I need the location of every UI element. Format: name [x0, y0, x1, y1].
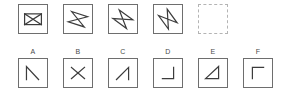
option-f-cell[interactable]: [243, 58, 273, 88]
right-triangle-icon: [199, 59, 227, 87]
option-b[interactable]: B: [63, 48, 93, 88]
bowtie-rotated-2-icon: [109, 5, 137, 33]
option-f[interactable]: F: [243, 48, 273, 88]
bowtie-rotated-3-icon: [154, 5, 182, 33]
option-d[interactable]: D: [153, 48, 183, 88]
options-row: A B C: [18, 48, 273, 88]
option-b-cell[interactable]: [63, 58, 93, 88]
rectangle-with-x-bowtie-icon: [19, 5, 47, 33]
x-cross-icon: [64, 59, 92, 87]
sequence-cell-1[interactable]: [18, 4, 48, 34]
option-e-cell[interactable]: [198, 58, 228, 88]
option-e[interactable]: E: [198, 48, 228, 88]
option-a-label: A: [31, 48, 36, 56]
option-d-label: D: [165, 48, 170, 56]
option-d-cell[interactable]: [153, 58, 183, 88]
sequence-cell-2[interactable]: [63, 4, 93, 34]
option-a-cell[interactable]: [18, 58, 48, 88]
option-c[interactable]: C: [108, 48, 138, 88]
caret-angle-icon: [19, 59, 47, 87]
sequence-cell-3[interactable]: [108, 4, 138, 34]
corner-bottom-right-icon: [154, 59, 182, 87]
option-a[interactable]: A: [18, 48, 48, 88]
bowtie-rotated-1-icon: [64, 5, 92, 33]
option-c-label: C: [120, 48, 125, 56]
diagonal-with-riser-icon: [109, 59, 137, 87]
sequence-cell-5-missing[interactable]: [198, 4, 228, 34]
option-e-label: E: [211, 48, 216, 56]
pattern-sequence-puzzle: A B C: [0, 0, 297, 98]
sequence-cell-4[interactable]: [153, 4, 183, 34]
sequence-row: [18, 4, 228, 34]
option-c-cell[interactable]: [108, 58, 138, 88]
option-f-label: F: [256, 48, 260, 56]
corner-top-left-icon: [244, 59, 272, 87]
option-b-label: B: [76, 48, 81, 56]
